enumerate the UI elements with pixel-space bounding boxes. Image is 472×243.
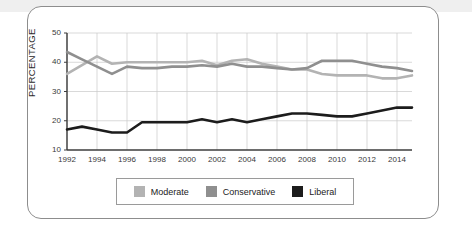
legend-label: Liberal [309,187,336,197]
x-tick-label-2006: 2006 [260,156,294,164]
legend-label: Moderate [151,187,189,197]
x-tick-label-2000: 2000 [170,156,204,164]
chart-plot-area [0,0,472,243]
x-tick-label-2008: 2008 [290,156,324,164]
legend-item-conservative[interactable]: Conservative [206,186,276,197]
square-swatch [206,186,217,197]
y-tick-label-10: 10 [39,146,61,154]
legend-item-liberal[interactable]: Liberal [292,186,336,197]
legend-item-moderate[interactable]: Moderate [134,186,189,197]
series-line-moderate [67,56,412,78]
y-tick-label-30: 30 [39,88,61,96]
x-tick-label-1998: 1998 [140,156,174,164]
x-tick-label-2014: 2014 [380,156,414,164]
chart-legend: ModerateConservativeLiberal [116,178,354,205]
y-tick-label-40: 40 [39,58,61,66]
x-tick-label-2002: 2002 [200,156,234,164]
y-axis-title: PERCENTAGE [26,8,37,118]
y-tick-label-20: 20 [39,117,61,125]
series-line-liberal [67,108,412,133]
chart-figure: PERCENTAGE 1020304050 199219941996199820… [0,0,472,243]
x-tick-label-1996: 1996 [110,156,144,164]
series-lines [67,52,412,132]
square-swatch [292,186,303,197]
x-tick-label-1994: 1994 [80,156,114,164]
y-tick-label-50: 50 [39,29,61,37]
x-tick-label-2004: 2004 [230,156,264,164]
square-swatch [134,186,145,197]
x-tick-label-1992: 1992 [50,156,84,164]
legend-label: Conservative [223,187,276,197]
x-tick-label-2012: 2012 [350,156,384,164]
x-tick-label-2010: 2010 [320,156,354,164]
